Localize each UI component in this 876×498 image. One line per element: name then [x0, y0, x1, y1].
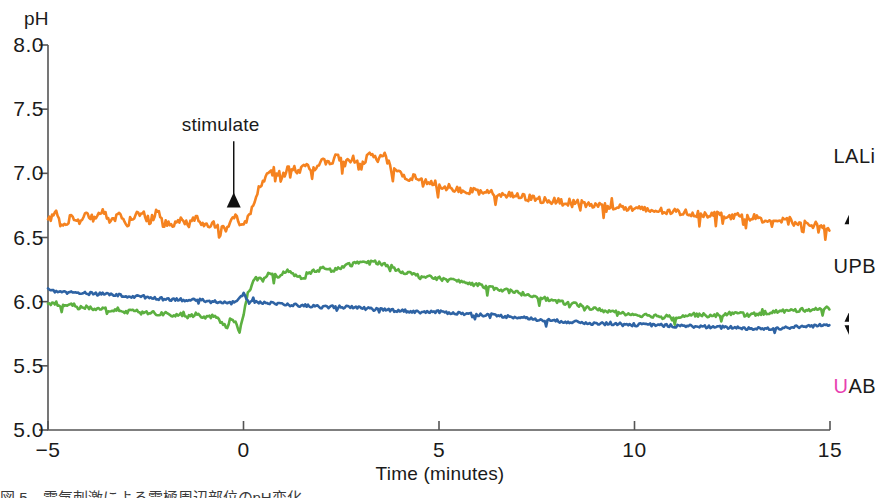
- x-tick-label: 10: [600, 438, 670, 462]
- x-tick-label: 5: [404, 438, 474, 462]
- y-tick-label: 8.0: [0, 33, 44, 57]
- y-tick-label: 7.5: [0, 97, 44, 121]
- series-label-lali: LALi: [834, 145, 876, 168]
- y-tick-label: 6.0: [0, 290, 44, 314]
- x-tick-label: 15: [795, 438, 865, 462]
- y-tick-label: 6.5: [0, 226, 44, 250]
- series-label-uab: UAB: [834, 375, 876, 398]
- series-label-upb: UPB: [834, 255, 876, 278]
- annotation-stimulate: stimulate: [182, 114, 260, 136]
- y-tick-label: 5.5: [0, 354, 44, 378]
- x-axis-title: Time (minutes): [290, 463, 590, 485]
- x-tick-label: −5: [13, 438, 83, 462]
- figure-caption: 図 5 電気刺激による電極周辺部位のpH変化: [0, 486, 849, 498]
- x-tick-label: 0: [209, 438, 279, 462]
- y-tick-label: 7.0: [0, 161, 44, 185]
- uab-u-glyph: U: [834, 375, 849, 397]
